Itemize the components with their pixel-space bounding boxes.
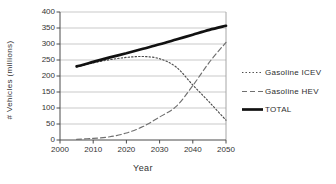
legend-dotted-line-icon	[242, 63, 263, 81]
x-tick-label-2010: 2010	[79, 145, 107, 155]
y-tick-label-300: 300	[20, 39, 55, 49]
y-tick-label-50: 50	[20, 119, 55, 129]
x-tick-label-2050: 2050	[212, 145, 240, 155]
legend-label: Gasoline ICEV	[265, 68, 321, 77]
y-tick-label-200: 200	[20, 71, 55, 81]
x-tick-label-2000: 2000	[46, 145, 74, 155]
legend-dashed-line-icon	[242, 82, 263, 100]
legend-item-total: TOTAL	[242, 100, 292, 118]
y-tick-label-250: 250	[20, 55, 55, 65]
legend-label: TOTAL	[265, 105, 292, 114]
y-tick-label-350: 350	[20, 23, 55, 33]
x-tick-label-2040: 2040	[179, 145, 207, 155]
y-tick-label-0: 0	[20, 135, 55, 145]
y-tick-label-400: 400	[20, 7, 55, 17]
legend-item-gasoline-hev: Gasoline HEV	[242, 82, 319, 100]
legend-item-gasoline-icev: Gasoline ICEV	[242, 63, 321, 81]
x-tick-label-2030: 2030	[146, 145, 174, 155]
vehicle-stock-line-chart: # Vehicles (millions) Year 0501001502002…	[0, 0, 336, 184]
x-axis-title: Year	[103, 163, 183, 173]
legend-label: Gasoline HEV	[265, 87, 319, 96]
y-tick-label-150: 150	[20, 87, 55, 97]
y-axis-title: # Vehicles (millions)	[5, 20, 17, 140]
legend-solid-thick-line-icon	[242, 100, 263, 118]
x-tick-label-2020: 2020	[112, 145, 140, 155]
series-line-gasoline-hev	[77, 42, 226, 139]
series-line-gasoline-icev	[77, 56, 226, 120]
y-tick-label-100: 100	[20, 103, 55, 113]
